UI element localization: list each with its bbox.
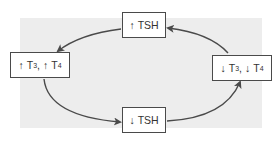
arrow-top-to-left: [58, 29, 121, 51]
node-increased-t3-t4: ↑T3,↑T4: [10, 52, 70, 78]
node-label: TSH: [138, 19, 159, 31]
node-increased-tsh: ↑TSH: [122, 12, 166, 38]
arrow-bottom-to-right: [167, 82, 240, 121]
arrow-left-to-bottom: [44, 79, 120, 122]
node-decreased-t3-t4: ↓T3,↓T4: [212, 55, 272, 81]
up-arrow-icon: ↑: [43, 59, 48, 71]
up-arrow-icon: ↑: [18, 59, 23, 71]
down-arrow-icon: ↓: [129, 114, 134, 126]
arrow-right-to-top: [168, 28, 228, 53]
down-arrow-icon: ↓: [245, 62, 250, 74]
node-label: TSH: [138, 114, 159, 126]
up-arrow-icon: ↑: [129, 19, 134, 31]
down-arrow-icon: ↓: [220, 62, 225, 74]
node-decreased-tsh: ↓TSH: [122, 107, 166, 133]
